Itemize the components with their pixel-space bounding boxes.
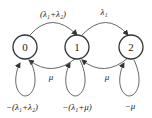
edge-1-to-2 [82,23,128,36]
edge-2-to-1 [82,58,128,69]
self-loop-0 [16,60,35,96]
state-1-label: 1 [74,41,80,53]
label-0-to-1: (λ₁+λ₂) [40,9,66,19]
state-2-label: 2 [128,41,134,53]
state-0-label: 0 [22,41,28,53]
state-diagram: 0 1 2 (λ₁+λ₂) λ₁ μ μ −(λ₁+λ₂) −(λ₁+μ) −μ [0,0,152,118]
self-loop-0-label: −(λ₁+λ₂) [6,102,38,112]
state-2: 2 [119,35,143,59]
edge-1-to-0 [29,58,76,69]
state-1: 1 [65,35,89,59]
self-loop-2 [120,60,139,96]
self-loop-2-label: −μ [125,101,136,111]
label-2-to-1: μ [104,72,110,82]
self-loop-1 [66,60,85,96]
state-0: 0 [13,35,37,59]
label-1-to-2: λ₁ [99,7,107,17]
self-loop-1-label: −(λ₁+μ) [62,102,92,112]
label-1-to-0: μ [48,72,54,82]
edge-0-to-1 [30,23,77,36]
